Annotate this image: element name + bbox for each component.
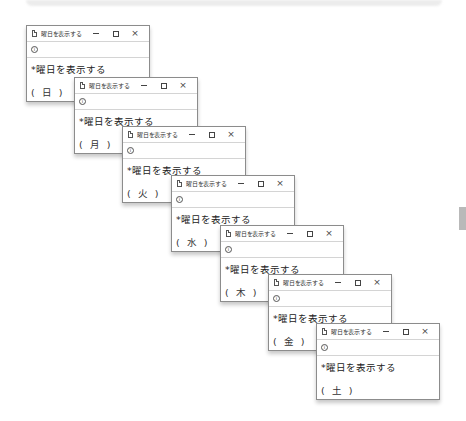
minimize-button[interactable] [185, 127, 199, 142]
minimize-button[interactable] [234, 176, 248, 191]
title-bar[interactable]: 曜日を表示する × [27, 26, 149, 42]
info-icon[interactable]: i [321, 344, 328, 351]
close-button[interactable]: × [370, 275, 384, 290]
weekday-label: ( 金 ) [273, 334, 306, 348]
minimize-button[interactable] [89, 26, 103, 41]
window-title: 曜日を表示する [137, 130, 178, 139]
close-icon: × [325, 229, 333, 238]
maximize-icon [403, 329, 409, 335]
minimize-icon [238, 183, 244, 184]
page-heading: *曜日を表示する [176, 212, 251, 226]
maximize-button[interactable] [399, 324, 413, 339]
document-icon [322, 328, 327, 335]
maximize-button[interactable] [157, 78, 171, 93]
document-icon [274, 279, 279, 286]
address-bar[interactable]: i [75, 94, 197, 110]
maximize-button[interactable] [109, 26, 123, 41]
maximize-button[interactable] [205, 127, 219, 142]
window-title: 曜日を表示する [41, 29, 82, 38]
info-icon[interactable]: i [225, 246, 232, 253]
info-icon[interactable]: i [273, 295, 280, 302]
close-icon: × [421, 327, 429, 336]
maximize-icon [209, 132, 215, 138]
weekday-label: ( 水 ) [176, 235, 209, 249]
maximize-icon [258, 181, 264, 187]
title-bar[interactable]: 曜日を表示する × [221, 226, 343, 242]
address-bar[interactable]: i [317, 340, 439, 356]
document-icon [226, 230, 231, 237]
window-title: 曜日を表示する [235, 229, 276, 238]
close-button[interactable]: × [418, 324, 432, 339]
address-bar[interactable]: i [221, 242, 343, 258]
minimize-button[interactable] [137, 78, 151, 93]
maximize-button[interactable] [351, 275, 365, 290]
info-icon[interactable]: i [176, 196, 183, 203]
close-icon: × [131, 29, 139, 38]
maximize-icon [161, 83, 167, 89]
page-content: *曜日を表示する ( 土 ) [317, 356, 439, 400]
close-icon: × [179, 81, 187, 90]
window-title: 曜日を表示する [283, 278, 324, 287]
close-button[interactable]: × [176, 78, 190, 93]
side-scroll-block [459, 207, 466, 230]
minimize-icon [383, 331, 389, 332]
document-icon [80, 82, 85, 89]
weekday-label: ( 火 ) [127, 186, 160, 200]
faded-top-strip [26, 0, 442, 6]
maximize-icon [355, 280, 361, 286]
address-bar[interactable]: i [123, 143, 245, 159]
page-heading: *曜日を表示する [321, 360, 396, 374]
title-bar[interactable]: 曜日を表示する × [123, 127, 245, 143]
info-icon[interactable]: i [127, 147, 134, 154]
browser-window-saturday[interactable]: 曜日を表示する × i *曜日を表示する ( 土 ) [316, 323, 440, 400]
weekday-label: ( 月 ) [79, 137, 112, 151]
close-button[interactable]: × [224, 127, 238, 142]
minimize-button[interactable] [379, 324, 393, 339]
minimize-button[interactable] [331, 275, 345, 290]
weekday-label: ( 木 ) [225, 285, 258, 299]
info-icon[interactable]: i [79, 98, 86, 105]
address-bar[interactable]: i [172, 192, 294, 208]
weekday-label: ( 日 ) [31, 85, 64, 99]
info-icon[interactable]: i [31, 46, 38, 53]
maximize-icon [113, 31, 119, 37]
maximize-button[interactable] [254, 176, 268, 191]
close-icon: × [227, 130, 235, 139]
maximize-button[interactable] [303, 226, 317, 241]
window-title: 曜日を表示する [331, 327, 372, 336]
close-button[interactable]: × [273, 176, 287, 191]
address-bar[interactable]: i [269, 291, 391, 307]
minimize-icon [287, 233, 293, 234]
document-icon [32, 30, 37, 37]
minimize-button[interactable] [283, 226, 297, 241]
minimize-icon [189, 134, 195, 135]
close-icon: × [373, 278, 381, 287]
close-button[interactable]: × [322, 226, 336, 241]
document-icon [177, 180, 182, 187]
minimize-icon [141, 85, 147, 86]
title-bar[interactable]: 曜日を表示する × [172, 176, 294, 192]
address-bar[interactable]: i [27, 42, 149, 58]
window-title: 曜日を表示する [89, 81, 130, 90]
close-icon: × [276, 179, 284, 188]
window-title: 曜日を表示する [186, 179, 227, 188]
weekday-label: ( 土 ) [321, 383, 354, 397]
minimize-icon [335, 282, 341, 283]
document-icon [128, 131, 133, 138]
page-heading: *曜日を表示する [31, 62, 106, 76]
title-bar[interactable]: 曜日を表示する × [75, 78, 197, 94]
title-bar[interactable]: 曜日を表示する × [269, 275, 391, 291]
close-button[interactable]: × [128, 26, 142, 41]
maximize-icon [307, 231, 313, 237]
title-bar[interactable]: 曜日を表示する × [317, 324, 439, 340]
minimize-icon [93, 33, 99, 34]
